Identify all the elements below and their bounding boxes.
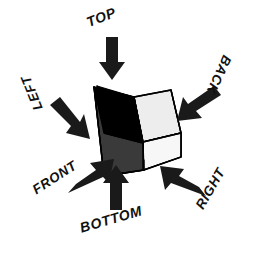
arrow-top-icon xyxy=(99,37,125,80)
diagram-canvas: TOP LEFT BACK FRONT BOTTOM RIGHT xyxy=(0,0,258,258)
arrow-left-icon xyxy=(50,97,90,139)
